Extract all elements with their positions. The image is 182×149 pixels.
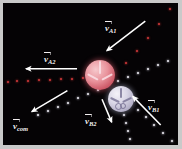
label-v-b2: vB2 bbox=[85, 117, 96, 127]
label-v-b1: vB1 bbox=[148, 103, 159, 113]
figure-frame: vA1 vA2 vcom vB2 vB1 bbox=[0, 0, 182, 149]
label-v-b1-symbol: v bbox=[148, 103, 152, 112]
label-v-a2-symbol: v bbox=[44, 55, 48, 64]
label-v-a2-subscript: A2 bbox=[48, 58, 55, 65]
label-v-b1-subscript: B1 bbox=[152, 106, 159, 113]
label-v-b2-subscript: B2 bbox=[89, 120, 96, 127]
label-v-com: vcom bbox=[13, 122, 28, 132]
label-v-a1: vA1 bbox=[105, 24, 116, 34]
label-v-a2: vA2 bbox=[44, 55, 55, 65]
arrow-v-com bbox=[32, 91, 68, 112]
label-v-com-subscript: com bbox=[17, 125, 28, 132]
label-v-a1-symbol: v bbox=[105, 24, 109, 33]
arrow-v-b2 bbox=[102, 99, 112, 122]
label-v-com-symbol: v bbox=[13, 122, 17, 131]
label-v-a1-subscript: A1 bbox=[109, 27, 116, 34]
figure-canvas: vA1 vA2 vcom vB2 vB1 bbox=[3, 3, 178, 145]
label-v-b2-symbol: v bbox=[85, 117, 89, 126]
